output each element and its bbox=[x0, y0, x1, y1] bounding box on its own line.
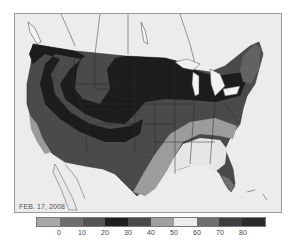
legend-tick-labels: 01020304050607080 bbox=[36, 229, 266, 239]
legend-swatch bbox=[242, 218, 265, 226]
legend-swatch bbox=[219, 218, 242, 226]
legend-swatch bbox=[151, 218, 174, 226]
legend-tick-label: 60 bbox=[193, 229, 201, 236]
legend-color-bar bbox=[36, 217, 266, 227]
map-date-label: FEB. 17, 2008 bbox=[18, 203, 66, 210]
legend-swatch bbox=[128, 218, 151, 226]
us-map-graphic bbox=[15, 14, 281, 212]
legend-swatch bbox=[174, 218, 197, 226]
legend-swatch bbox=[197, 218, 220, 226]
legend-swatch bbox=[60, 218, 83, 226]
legend-tick-label: 0 bbox=[57, 229, 61, 236]
legend-swatch bbox=[105, 218, 128, 226]
legend-tick-label: 30 bbox=[124, 229, 132, 236]
legend-tick-label: 20 bbox=[101, 229, 109, 236]
legend-tick-label: 40 bbox=[147, 229, 155, 236]
legend-tick-label: 70 bbox=[216, 229, 224, 236]
legend-tick-label: 80 bbox=[239, 229, 247, 236]
temperature-map: FEB. 17, 2008 bbox=[14, 13, 282, 213]
legend-tick-label: 10 bbox=[78, 229, 86, 236]
legend-swatch bbox=[37, 218, 60, 226]
legend-swatch bbox=[83, 218, 106, 226]
legend-tick-label: 50 bbox=[170, 229, 178, 236]
temperature-legend: 01020304050607080 bbox=[36, 217, 266, 239]
